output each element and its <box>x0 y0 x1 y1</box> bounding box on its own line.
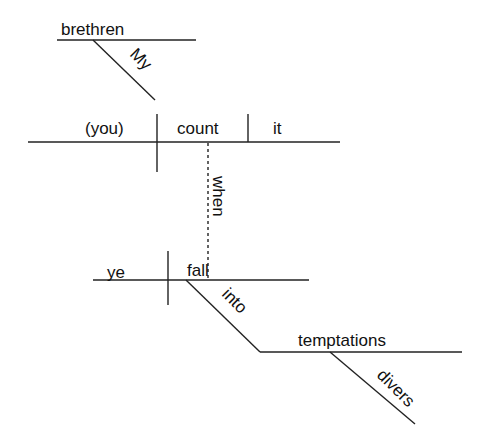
word-conjunction: when <box>209 175 228 217</box>
word-my: My <box>126 44 156 74</box>
word-prep-object: temptations <box>298 331 386 350</box>
word-modifier: divers <box>373 365 419 411</box>
word-subject: (you) <box>85 119 124 138</box>
word-sub-verb: fall <box>187 261 209 280</box>
word-verb: count <box>177 119 219 138</box>
sentence-diagram: brethren My (you) count it when ye fall … <box>0 0 487 448</box>
word-sub-subject: ye <box>107 263 125 282</box>
word-brethren: brethren <box>61 20 124 39</box>
into-preposition-line <box>186 280 260 352</box>
word-object: it <box>273 119 282 138</box>
word-preposition: into <box>218 284 251 317</box>
